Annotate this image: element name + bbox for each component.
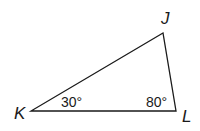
angle-label-l: 80° [146,94,167,110]
angle-label-k: 30° [61,94,82,110]
triangle-diagram: J K L 30° 80° [0,0,200,131]
vertex-label-l: L [182,107,191,126]
vertex-label-k: K [14,104,26,123]
vertex-label-j: J [160,9,170,28]
